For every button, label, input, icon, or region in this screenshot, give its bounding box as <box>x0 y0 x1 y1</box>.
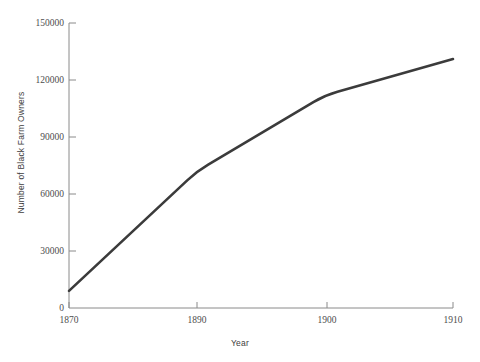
plot-area <box>0 0 480 362</box>
x-axis-ticks <box>69 302 453 308</box>
data-series-line <box>69 59 453 291</box>
y-axis-ticks <box>69 23 76 251</box>
line-chart: Number of Black Farm Owners Year 150000 … <box>0 0 480 362</box>
